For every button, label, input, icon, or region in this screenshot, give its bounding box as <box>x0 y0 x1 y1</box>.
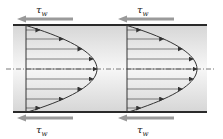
diagram-canvas <box>0 0 223 139</box>
arrow-head-icon <box>118 115 127 122</box>
arrow-head-icon <box>17 16 26 23</box>
tau-subscript: w <box>42 130 48 138</box>
tau-w-label-top-left: τw <box>36 5 48 18</box>
tau-subscript: w <box>143 130 149 138</box>
arrow-head-icon <box>118 16 127 23</box>
tau-w-label-bottom-left: τw <box>36 125 48 138</box>
arrow-head-icon <box>17 115 26 122</box>
tau-w-label-top-right: τw <box>137 5 149 18</box>
pipe-flow-diagram: τw τw τw τw <box>0 0 223 139</box>
tau-w-label-bottom-right: τw <box>137 125 149 138</box>
tau-subscript: w <box>42 10 48 18</box>
tau-subscript: w <box>143 10 149 18</box>
